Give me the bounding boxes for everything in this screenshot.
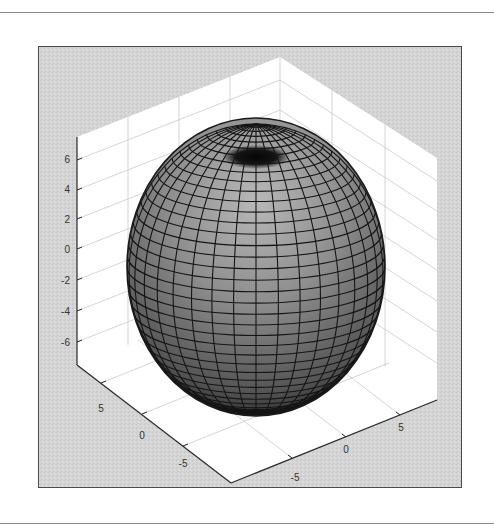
top-pole-dimple	[222, 145, 290, 169]
z-tick-label: 4	[64, 184, 70, 195]
surface-plot-figure: 6 4 2 0 -2 -4 -6 5 0 -5 -5 0 5	[0, 0, 494, 526]
z-tick-label: -4	[61, 306, 70, 317]
z-tick-label: -6	[61, 337, 70, 348]
right-floor-tick-label: 0	[343, 444, 349, 455]
ellipsoid-surface	[127, 118, 385, 416]
left-floor-tick-label: 5	[98, 403, 104, 414]
left-floor-tick-label: -5	[179, 458, 188, 469]
z-tick-label: 0	[64, 244, 70, 255]
z-tick-label: 6	[64, 154, 70, 165]
right-floor-tick-label: -5	[291, 472, 300, 483]
right-floor-tick-label: 5	[398, 422, 404, 433]
z-tick-label: -2	[61, 275, 70, 286]
left-floor-tick-label: 0	[139, 430, 145, 441]
z-tick-label: 2	[64, 214, 70, 225]
